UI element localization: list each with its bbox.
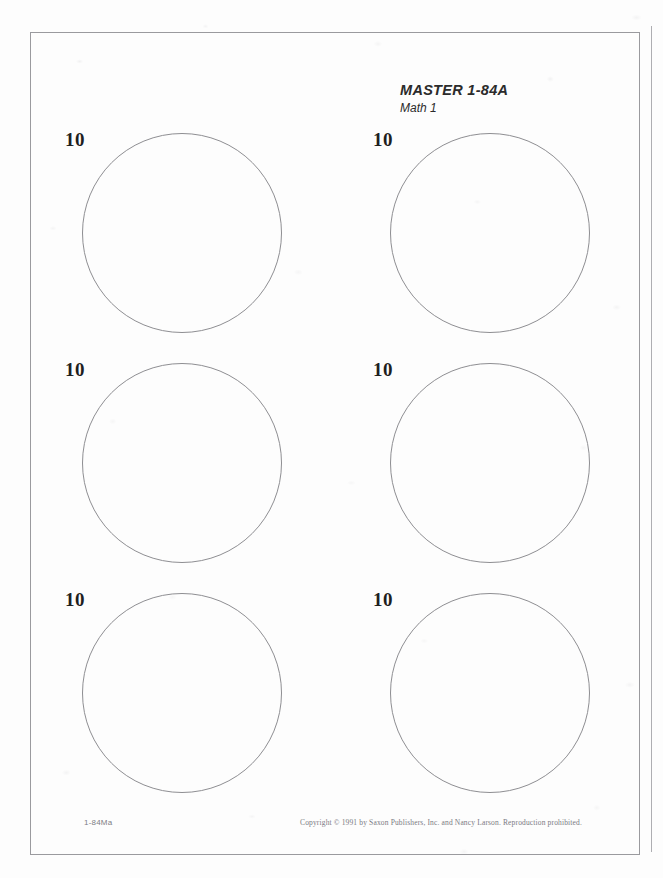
circle-value-label: 10 xyxy=(373,359,393,381)
circle-cell: 10 xyxy=(390,363,590,563)
circle-outline xyxy=(390,133,590,333)
footer-copyright-notice: Copyright © 1991 by Saxon Publishers, In… xyxy=(300,818,582,827)
circle-cell: 10 xyxy=(390,593,590,793)
circle-value-label: 10 xyxy=(373,589,393,611)
circle-outline xyxy=(390,593,590,793)
adjacent-sheet-edge xyxy=(651,26,652,852)
circle-cell: 10 xyxy=(82,133,282,333)
subject-label: Math 1 xyxy=(400,101,585,117)
circle-value-label: 10 xyxy=(373,129,393,151)
footer-page-code: 1-84Ma xyxy=(84,818,112,827)
circle-value-label: 10 xyxy=(65,359,85,381)
circle-value-label: 10 xyxy=(65,589,85,611)
scanned-worksheet-page: MASTER 1-84A Math 1 10 10 10 10 10 10 1-… xyxy=(0,0,663,878)
circle-cell: 10 xyxy=(82,363,282,563)
circle-outline xyxy=(82,593,282,793)
master-number-label: MASTER 1-84A xyxy=(400,82,585,99)
circle-outline xyxy=(82,133,282,333)
circle-value-label: 10 xyxy=(65,129,85,151)
worksheet-header: MASTER 1-84A Math 1 xyxy=(400,82,585,116)
circle-cell: 10 xyxy=(82,593,282,793)
circle-outline xyxy=(390,363,590,563)
circle-cell: 10 xyxy=(390,133,590,333)
circle-outline xyxy=(82,363,282,563)
